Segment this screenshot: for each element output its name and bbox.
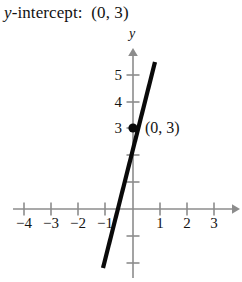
caption-text: -intercept: (0, 3) bbox=[12, 3, 129, 22]
x-axis-arrow bbox=[232, 204, 240, 214]
figure-root: y-intercept: (0, 3) bbox=[0, 0, 242, 282]
x-tick-label--3: −3 bbox=[38, 216, 64, 231]
caption-variable: y bbox=[4, 3, 12, 22]
y-axis-label: y bbox=[129, 26, 135, 41]
y-tick-label-3: 3 bbox=[104, 121, 122, 136]
x-tick-label--2: −2 bbox=[65, 216, 91, 231]
page-title: y-intercept: (0, 3) bbox=[4, 1, 129, 25]
x-tick-label-3: 3 bbox=[201, 216, 227, 231]
y-tick-label-4: 4 bbox=[104, 95, 122, 110]
x-tick-label--1: −1 bbox=[92, 216, 118, 231]
point-annotation-label: (0, 3) bbox=[145, 120, 180, 135]
coordinate-plane: y (0, 3) −4 −3 −2 −1 1 2 3 5 4 3 bbox=[0, 28, 242, 282]
x-tick-label-2: 2 bbox=[174, 216, 200, 231]
y-intercept-point bbox=[128, 123, 137, 132]
y-tick-label-5: 5 bbox=[104, 68, 122, 83]
y-axis-arrow bbox=[128, 48, 138, 56]
x-tick-label--4: −4 bbox=[11, 216, 37, 231]
plotted-line bbox=[103, 62, 155, 268]
x-tick-label-1: 1 bbox=[147, 216, 173, 231]
